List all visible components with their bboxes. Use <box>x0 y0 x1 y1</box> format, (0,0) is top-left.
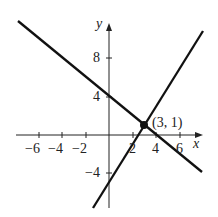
x-tick-label: 6 <box>176 142 183 156</box>
x-tick-label: −2 <box>72 142 87 156</box>
y-tick-label: 8 <box>93 51 100 65</box>
intersection-point <box>140 121 148 129</box>
point-label: (3, 1) <box>152 116 182 130</box>
y-axis-label: y <box>96 17 102 31</box>
chart-plot <box>0 0 218 217</box>
x-axis-label: x <box>193 137 199 151</box>
y-tick-label: 4 <box>93 90 100 104</box>
line-decreasing <box>18 21 202 172</box>
x-tick-label: 4 <box>152 142 159 156</box>
x-tick-label: −6 <box>25 142 40 156</box>
x-tick-label: −4 <box>48 142 63 156</box>
y-tick-label: −4 <box>85 166 100 180</box>
x-tick-label: 2 <box>129 142 136 156</box>
